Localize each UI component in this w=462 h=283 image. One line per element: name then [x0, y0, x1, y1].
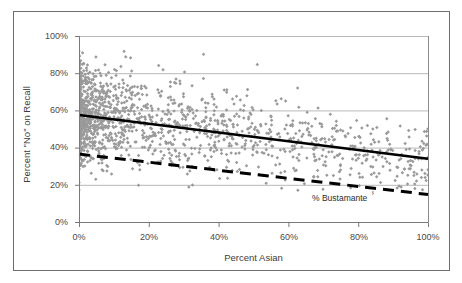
y-tick-label-0: 0%	[30, 217, 68, 227]
x-tick-label-100: 100%	[408, 232, 448, 242]
x-axis-title: Percent Asian	[79, 252, 428, 263]
y-tick-label-20: 20%	[30, 180, 68, 190]
y-axis-ticks	[75, 37, 79, 223]
y-tick-label-100: 100%	[30, 31, 68, 41]
bustamante-annotation-label: % Bustamante	[312, 193, 367, 203]
y-axis-title: Percent "No" on Recall	[21, 65, 32, 205]
y-tick-label-60: 60%	[30, 105, 68, 115]
x-axis-ticks	[80, 223, 429, 228]
y-tick-label-40: 40%	[30, 142, 68, 152]
bustamante-annotation: % Bustamanteⸯ	[312, 193, 376, 203]
x-tick-label-20: 20%	[129, 232, 169, 242]
plot-area-wrapper: 100% 80% 60% 40% 20% 0% 0% 20% 40% 60% 8…	[0, 0, 462, 283]
x-tick-label-0: 0%	[59, 232, 99, 242]
x-tick-label-60: 60%	[269, 232, 309, 242]
y-tick-label-80: 80%	[30, 68, 68, 78]
x-tick-label-40: 40%	[199, 232, 239, 242]
annotation-arrow-icon: ⸯ	[370, 193, 376, 203]
x-tick-label-80: 80%	[339, 232, 379, 242]
chart-figure: 100% 80% 60% 40% 20% 0% 0% 20% 40% 60% 8…	[0, 0, 462, 283]
